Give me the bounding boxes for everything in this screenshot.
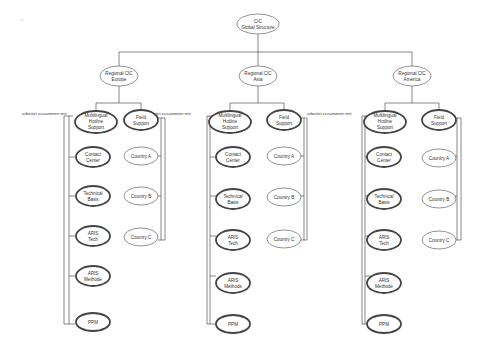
svg-text:Methode: Methode [84,277,102,282]
svg-text:PPM: PPM [379,322,389,327]
node-asia-aris-tech[interactable]: ARIS Tech [216,230,250,250]
svg-text:Center: Center [86,158,100,163]
node-asia-country-b[interactable]: Country B [267,188,301,206]
node-regional-america[interactable]: Regional CIC America [393,66,431,86]
svg-text:Tech: Tech [379,241,389,246]
svg-text:Field: Field [434,115,444,120]
svg-text:Support: Support [222,125,239,130]
svg-text:Tech: Tech [88,237,98,242]
node-europe-hotline[interactable]: Multilingual Hotline Support [75,111,117,133]
svg-text:Support: Support [133,121,150,126]
svg-text:Center: Center [377,158,391,163]
svg-text:Technical: Technical [83,191,102,196]
svg-text:Country B: Country B [274,195,294,200]
node-regional-asia[interactable]: Regional CIC Asia [239,66,277,86]
node-asia-country-c[interactable]: Country C [267,230,301,248]
svg-text:Center: Center [226,158,240,163]
svg-text:ARIS: ARIS [88,231,99,236]
svg-text:Multilingual: Multilingual [85,113,108,118]
svg-text:Regional CIC: Regional CIC [105,71,133,76]
node-america-country-a[interactable]: Country A [422,149,456,167]
svg-text:Technical: Technical [374,194,393,199]
svg-text:ARIS: ARIS [88,271,99,276]
node-asia-aris-methods[interactable]: ARIS Methods [216,273,250,293]
svg-text:ARIS: ARIS [379,235,390,240]
svg-text:Support: Support [88,125,105,130]
svg-text:Europe: Europe [112,77,127,82]
svg-text:Contact: Contact [85,152,102,157]
node-europe-ppm[interactable]: PPM [76,313,110,331]
svg-text:Regional CIC: Regional CIC [244,71,272,76]
svg-text:Basis: Basis [87,197,99,202]
svg-text:Country B: Country B [429,197,449,202]
svg-text:Support: Support [431,121,448,126]
svg-text:Country B: Country B [131,194,151,199]
node-america-country-b[interactable]: Country B [422,190,456,208]
svg-text:Asia: Asia [254,77,263,82]
svg-text:Basis: Basis [378,200,390,205]
relation-label-europe: arbeitet zusammen mit [22,111,67,116]
svg-text:Basis: Basis [227,200,239,205]
svg-text:Contact: Contact [376,152,393,157]
node-america-country-c[interactable]: Country C [422,231,456,249]
node-regional-europe[interactable]: Regional CIC Europe [100,66,138,86]
node-america-technical-basis[interactable]: Technical Basis [367,189,401,209]
node-root[interactable]: CIC Global Structure [237,14,279,34]
svg-text:Methods: Methods [224,284,242,289]
node-asia-contact-center[interactable]: Contact Center [216,147,250,167]
node-europe-technical-basis[interactable]: Technical Basis [76,186,110,206]
svg-text:Hotline: Hotline [223,119,238,124]
node-america-ppm[interactable]: PPM [367,315,401,333]
node-europe-field[interactable]: Field Support [124,110,158,130]
node-asia-ppm[interactable]: PPM [216,315,250,333]
svg-text:Country A: Country A [131,154,152,159]
svg-text:Contact: Contact [225,152,242,157]
svg-text:Country C: Country C [429,238,450,243]
svg-text:Country A: Country A [274,154,295,159]
svg-text:America: America [404,77,421,82]
node-europe-contact-center[interactable]: Contact Center [76,147,110,167]
svg-text:Multilingual: Multilingual [219,113,242,118]
svg-text:Hotline: Hotline [378,119,393,124]
node-asia-country-a[interactable]: Country A [267,147,301,165]
node-america-aris-methode[interactable]: ARIS Methode [367,273,401,293]
node-asia-field[interactable]: Field Support [267,110,301,130]
svg-text:Field: Field [136,115,146,120]
svg-text:Support: Support [276,121,293,126]
svg-text:Regional CIC: Regional CIC [398,71,426,76]
svg-text:Tech: Tech [228,241,238,246]
node-asia-technical-basis[interactable]: Technical Basis [216,189,250,209]
svg-text:Multilingual: Multilingual [374,113,397,118]
svg-text:Field: Field [279,115,289,120]
svg-text:Hotline: Hotline [89,119,104,124]
node-america-field[interactable]: Field Support [422,110,456,130]
node-america-contact-center[interactable]: Contact Center [367,147,401,167]
node-america-hotline[interactable]: Multilingual Hotline Support [364,111,406,133]
node-america-aris-tech[interactable]: ARIS Tech [367,230,401,250]
node-europe-country-c[interactable]: Country C [124,228,158,246]
svg-text:CIC: CIC [254,19,263,24]
svg-text:PPM: PPM [88,320,98,325]
stray-mark [21,19,23,21]
svg-text:Support: Support [377,125,394,130]
relation-label-asia-field: arbeitet zusammen mit [307,111,352,116]
svg-text:ARIS: ARIS [379,278,390,283]
node-europe-aris-tech[interactable]: ARIS Tech [76,226,110,246]
svg-text:Country C: Country C [274,237,295,242]
svg-text:ARIS: ARIS [228,278,239,283]
node-europe-country-a[interactable]: Country A [124,147,158,165]
node-asia-hotline[interactable]: Multilingual Hotline Support [209,111,251,133]
svg-text:Country C: Country C [131,235,152,240]
svg-text:ARIS: ARIS [228,235,239,240]
node-europe-aris-methode[interactable]: ARIS Methode [76,266,110,286]
svg-text:PPM: PPM [228,322,238,327]
svg-text:Country A: Country A [429,156,450,161]
svg-text:Global Structure: Global Structure [241,25,275,30]
org-chart: arbeitet zusammen mit arbeitet zusammen … [0,0,484,352]
svg-text:Technical: Technical [223,194,242,199]
svg-text:Methode: Methode [375,284,393,289]
node-europe-country-b[interactable]: Country B [124,187,158,205]
